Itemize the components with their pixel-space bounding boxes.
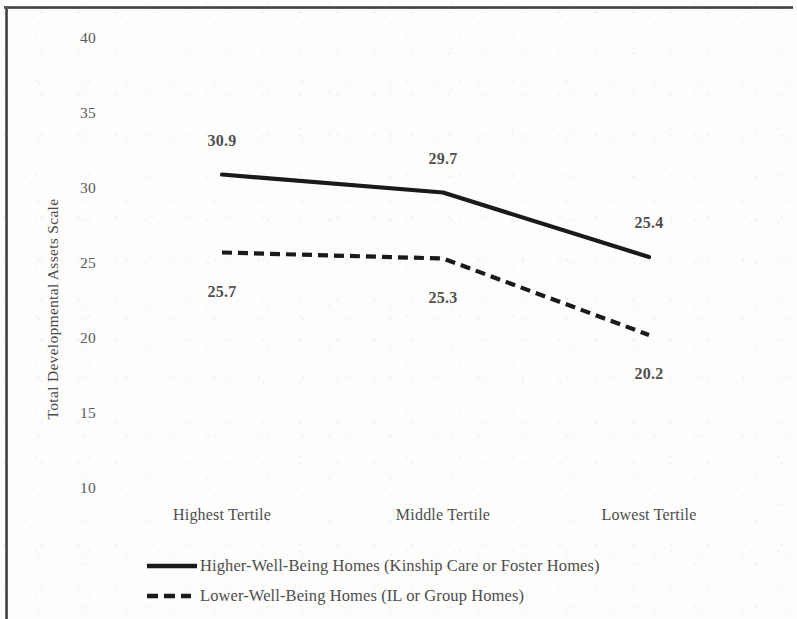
data-label: 30.9	[162, 132, 282, 150]
x-axis-tick-label: Middle Tertile	[338, 506, 548, 524]
x-axis-tick-label: Highest Tertile	[117, 506, 327, 524]
legend-label: Lower-Well-Being Homes (IL or Group Home…	[198, 586, 524, 606]
data-label: 29.7	[383, 150, 503, 168]
legend-label: Higher-Well-Being Homes (Kinship Care or…	[198, 556, 600, 576]
legend-item-higher-well-being: Higher-Well-Being Homes (Kinship Care or…	[146, 553, 600, 579]
plot-area	[0, 0, 797, 619]
figure-container: Total Developmental Assets Scale 40 35 3…	[0, 0, 797, 619]
x-axis-tick-label: Lowest Tertile	[544, 506, 754, 524]
data-label: 25.4	[589, 214, 709, 232]
dashed-line-swatch	[146, 587, 198, 605]
solid-line-swatch	[146, 557, 198, 575]
legend-item-lower-well-being: Lower-Well-Being Homes (IL or Group Home…	[146, 583, 524, 609]
data-label: 25.7	[162, 283, 282, 301]
data-label: 25.3	[383, 289, 503, 307]
data-label: 20.2	[589, 365, 709, 383]
series-line-higher-well-being	[222, 175, 649, 258]
